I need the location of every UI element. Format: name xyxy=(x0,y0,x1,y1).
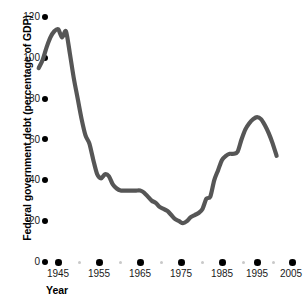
plot-area xyxy=(0,0,308,305)
debt-series-line xyxy=(39,29,277,223)
chart-figure: Federal government debt (percentage of G… xyxy=(0,0,308,305)
